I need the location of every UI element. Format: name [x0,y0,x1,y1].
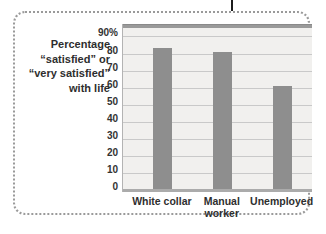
ytick-label-70: 70 [88,63,118,73]
category-label-unemployed: Unemployed [250,196,314,208]
ytick-label-0: 0 [88,182,118,192]
gridline-90 [123,36,312,37]
bar-manual-worker [213,52,232,192]
ytick-label-60: 60 [88,80,118,90]
ytick-label-90: 90% [88,28,118,38]
ytick-label-30: 30 [88,131,118,141]
ytick-label-20: 20 [88,148,118,158]
ytick-label-50: 50 [88,97,118,107]
page-background: Percentage “satisfied” or “very satisfie… [0,0,326,234]
bar-unemployed [273,86,292,192]
category-label-white-collar: White collar [130,196,194,208]
plot-top-border [123,24,312,28]
ytick-label-80: 80 [88,46,118,56]
ytick-label-10: 10 [88,165,118,175]
plot-area [122,24,312,192]
plot-baseline [123,189,312,192]
ytick-label-40: 40 [88,114,118,124]
column-rule-line [231,0,233,11]
bar-white-collar [153,48,172,192]
category-label-manual-worker: Manual worker [190,196,254,219]
